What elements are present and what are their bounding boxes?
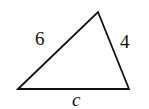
triangle-shape: [18, 12, 129, 89]
side-label-left: 6: [35, 28, 45, 49]
triangle-diagram: 6 4 c: [0, 0, 149, 109]
side-label-bottom: c: [72, 89, 81, 109]
side-label-right: 4: [120, 31, 130, 52]
triangle-figure: 6 4 c: [0, 0, 149, 109]
